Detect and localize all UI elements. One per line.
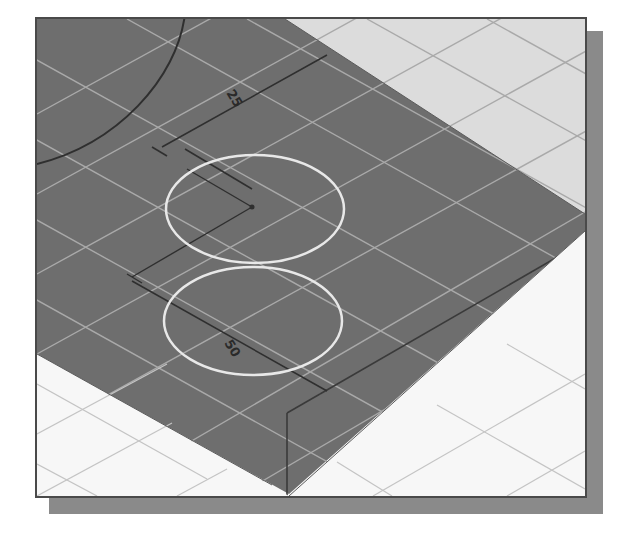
circle-center-mark: [250, 205, 255, 210]
viewport-canvas[interactable]: 25 50: [37, 19, 585, 496]
cad-viewport[interactable]: 25 50: [35, 17, 587, 498]
